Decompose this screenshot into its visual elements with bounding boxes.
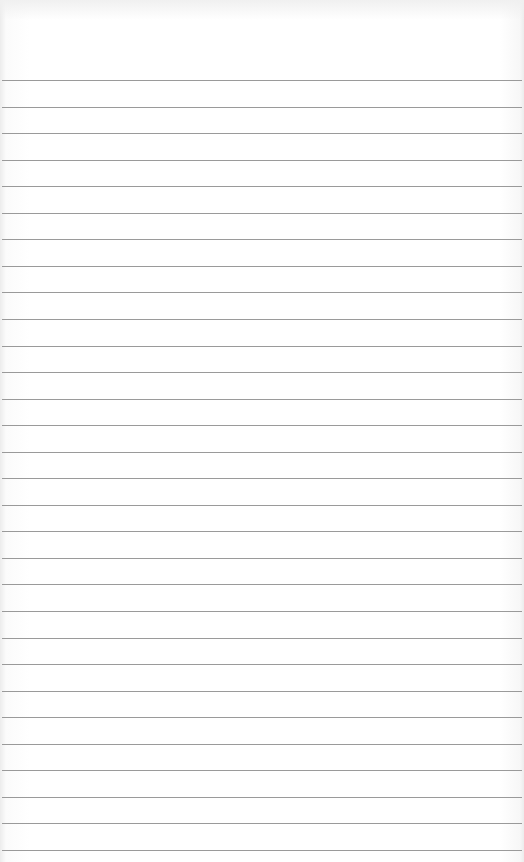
ruled-line	[2, 452, 522, 453]
ruled-line	[2, 611, 522, 612]
ruled-line	[2, 797, 522, 798]
ruled-line	[2, 478, 522, 479]
ruled-line	[2, 664, 522, 665]
ruled-line	[2, 505, 522, 506]
ruled-line	[2, 160, 522, 161]
top-edge-shadow	[0, 0, 524, 20]
ruled-line	[2, 292, 522, 293]
ruled-line	[2, 425, 522, 426]
ruled-line	[2, 186, 522, 187]
ruled-line	[2, 319, 522, 320]
ruled-line	[2, 266, 522, 267]
ruled-line	[2, 691, 522, 692]
ruled-line	[2, 558, 522, 559]
ruled-line	[2, 213, 522, 214]
ruled-line	[2, 133, 522, 134]
ruled-line	[2, 107, 522, 108]
ruled-line	[2, 744, 522, 745]
ruled-line	[2, 80, 522, 81]
lined-paper-sheet	[0, 0, 524, 862]
ruled-line	[2, 372, 522, 373]
ruled-line	[2, 584, 522, 585]
ruled-line	[2, 239, 522, 240]
ruled-line	[2, 638, 522, 639]
ruled-line	[2, 399, 522, 400]
ruled-line	[2, 346, 522, 347]
ruled-line	[2, 717, 522, 718]
ruled-line	[2, 770, 522, 771]
ruled-line	[2, 850, 522, 851]
ruled-line	[2, 531, 522, 532]
ruled-line	[2, 823, 522, 824]
